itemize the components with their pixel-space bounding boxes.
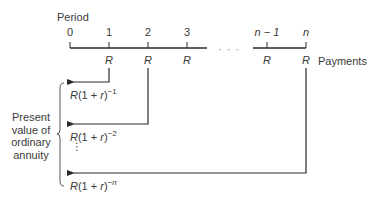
period-n: n	[303, 26, 309, 38]
period-axis-label: Period	[57, 11, 89, 23]
present-value-1: RR(1 + (1 + r)−1	[70, 89, 117, 101]
arrow-period-n	[74, 68, 306, 173]
ellipsis: · · ·	[218, 43, 240, 55]
payment-n: R	[302, 54, 310, 66]
pv-exp: 2	[112, 129, 116, 138]
payment-2: R	[144, 54, 152, 66]
period-3: 3	[184, 26, 190, 38]
period-2: 2	[145, 26, 151, 38]
pv-exp: n	[112, 178, 116, 187]
period-n-minus-1: n − 1	[255, 26, 280, 38]
arrow-period-1	[74, 68, 109, 82]
period-1: 1	[106, 26, 112, 38]
vertical-ellipsis: ⋮	[72, 142, 82, 151]
discount-arrows	[74, 68, 306, 173]
period-ticks	[70, 42, 306, 48]
payments-label: Payments	[318, 55, 367, 67]
bracket-label-line: annuity	[4, 149, 58, 162]
present-value-n: RR(1 + (1 + r)−n	[70, 180, 117, 192]
payment-n-minus-1: R	[263, 54, 271, 66]
pv-exp: 1	[112, 87, 116, 96]
bracket-label-line: value of	[4, 124, 58, 137]
bracket-label: Present value of ordinary annuity	[4, 111, 58, 161]
period-0: 0	[67, 26, 73, 38]
bracket-label-line: Present	[4, 111, 58, 124]
payment-1: R	[105, 54, 113, 66]
payment-3: R	[183, 54, 191, 66]
brace	[57, 83, 64, 186]
bracket-label-line: ordinary	[4, 136, 58, 149]
